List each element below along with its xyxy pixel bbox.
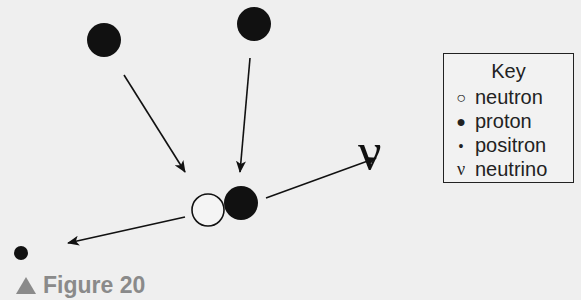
key-title: Key: [444, 60, 573, 83]
key-label: proton: [475, 110, 532, 133]
key-label: neutrino: [475, 158, 547, 181]
positron: [14, 246, 28, 260]
key-item-neutrino: ν neutrino: [453, 158, 547, 181]
neutron: [192, 194, 224, 226]
proton-product: [224, 186, 258, 220]
neutrino-symbol: ν: [358, 122, 382, 181]
positron-icon: •: [453, 138, 469, 154]
triangle-icon: [16, 277, 36, 294]
proton-icon: ●: [453, 113, 469, 131]
figure-caption: Figure 20: [16, 272, 145, 299]
neutrino-icon: ν: [453, 159, 469, 180]
key-box: Key ○ neutron ● proton • positron ν neut…: [443, 53, 574, 183]
key-label: positron: [475, 134, 546, 157]
key-label: neutron: [475, 86, 543, 109]
proton-top-left: [87, 23, 121, 57]
proton-top-right: [237, 7, 271, 41]
neutron-icon: ○: [453, 89, 469, 107]
key-item-proton: ● proton: [453, 110, 532, 133]
key-item-neutron: ○ neutron: [453, 86, 543, 109]
arrow-right-proton: [240, 58, 250, 172]
caption-label: Figure 20: [43, 272, 145, 299]
key-item-positron: • positron: [453, 134, 546, 157]
arrow-to-positron: [68, 217, 185, 243]
arrow-left-proton: [124, 75, 185, 172]
